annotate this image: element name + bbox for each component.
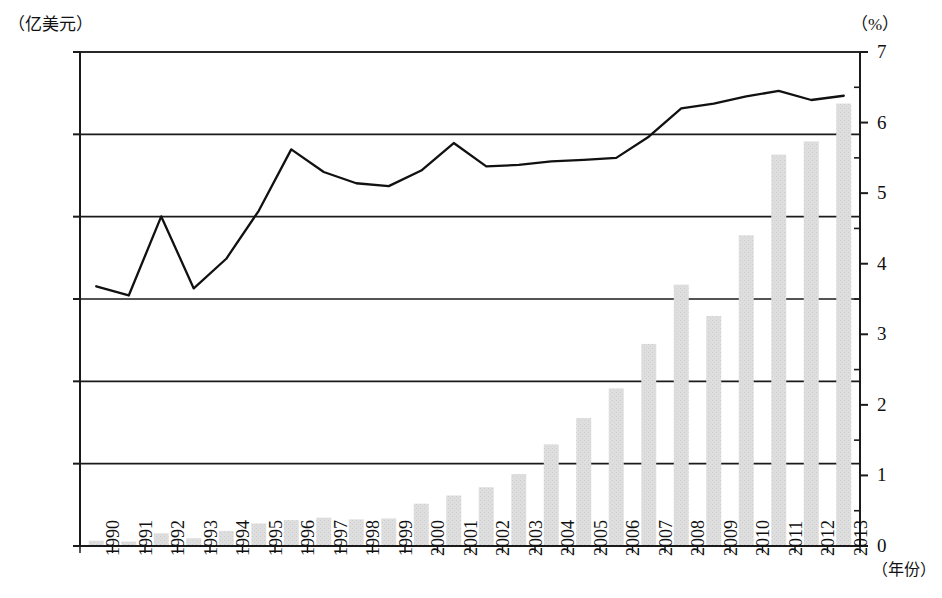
x-axis-tick-label: 1999 bbox=[396, 520, 417, 556]
x-axis-tick-label: 2004 bbox=[558, 520, 579, 556]
x-axis-tick-label: 1994 bbox=[233, 520, 254, 556]
x-axis-tick-label: 1997 bbox=[331, 520, 352, 556]
right-axis-tick-label: 1 bbox=[877, 464, 887, 486]
x-axis-tick-label: 1992 bbox=[168, 520, 189, 556]
bar bbox=[706, 316, 721, 546]
right-axis-tick-labels: 76543210 bbox=[872, 0, 932, 598]
right-axis-tick-label: 4 bbox=[877, 253, 887, 275]
x-axis-tick-label: 1991 bbox=[136, 520, 157, 556]
right-axis-tick-label: 0 bbox=[877, 535, 887, 557]
line-path bbox=[96, 91, 844, 296]
x-axis-tick-label: 2009 bbox=[721, 520, 742, 556]
x-axis-tick-label: 1998 bbox=[363, 520, 384, 556]
x-axis-tick-label: 2010 bbox=[753, 520, 774, 556]
x-axis-tick-label: 2000 bbox=[428, 520, 449, 556]
bar-series bbox=[89, 104, 851, 546]
bar bbox=[771, 155, 786, 546]
x-axis-tick-label: 2001 bbox=[461, 520, 482, 556]
left-axis-tick-labels: 3 0032 5032 0031 5031 0035033 bbox=[0, 0, 70, 598]
right-axis-tick-label: 6 bbox=[877, 112, 887, 134]
x-axis-tick-label: 1996 bbox=[298, 520, 319, 556]
x-axis-tick-label: 1993 bbox=[201, 520, 222, 556]
x-axis-tick-label: 1990 bbox=[103, 520, 124, 556]
line-series bbox=[96, 91, 844, 296]
x-axis-tick-label: 2003 bbox=[526, 520, 547, 556]
bar bbox=[739, 235, 754, 546]
plot-area bbox=[0, 0, 942, 598]
x-axis-tick-label: 1995 bbox=[266, 520, 287, 556]
chart-container: （亿美元） （%） （年份） 3 0032 5032 0031 5031 003… bbox=[0, 0, 942, 598]
x-axis-tick-label: 2006 bbox=[623, 520, 644, 556]
right-axis-tick-label: 2 bbox=[877, 394, 887, 416]
bar bbox=[836, 104, 851, 546]
right-axis-tick-label: 3 bbox=[877, 323, 887, 345]
bar bbox=[804, 141, 819, 546]
x-axis-tick-label: 2012 bbox=[818, 520, 839, 556]
x-axis-tick-label: 2011 bbox=[786, 521, 807, 556]
bar bbox=[641, 344, 656, 546]
x-axis-tick-label: 2013 bbox=[851, 520, 872, 556]
bar bbox=[674, 285, 689, 546]
x-axis-tick-label: 2008 bbox=[688, 520, 709, 556]
right-axis-tick-label: 5 bbox=[877, 182, 887, 204]
x-axis-tick-label: 2005 bbox=[591, 520, 612, 556]
x-axis-tick-label: 2002 bbox=[493, 520, 514, 556]
right-axis-tick-label: 7 bbox=[877, 41, 887, 63]
left-axis-ticks bbox=[73, 52, 80, 546]
x-axis-tick-label: 2007 bbox=[656, 520, 677, 556]
